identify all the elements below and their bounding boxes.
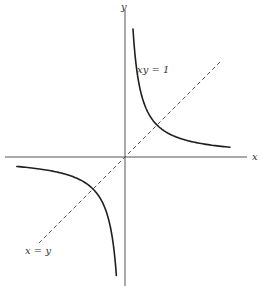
line-x-equals-y (39, 61, 221, 243)
hyperbola-label: xy = 1 (137, 64, 169, 75)
hyperbola-diagram: x y xy = 1 x = y (0, 0, 261, 286)
diagonal-label: x = y (25, 245, 51, 256)
hyperbola-lower-branch (17, 166, 117, 275)
hyperbola-upper-branch (133, 29, 230, 147)
y-axis-label: y (120, 1, 127, 12)
x-axis-label: x (252, 151, 258, 162)
